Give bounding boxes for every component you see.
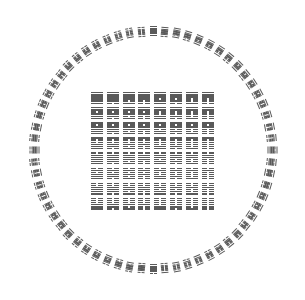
yang-line [186, 118, 198, 119]
yang-line [272, 147, 273, 154]
hexagram-glyph [186, 168, 198, 180]
hexagram-glyph [161, 263, 169, 274]
hexagram-glyph [102, 254, 112, 266]
hexagram-glyph [183, 258, 193, 270]
hexagram-glyph [138, 122, 150, 134]
yin-line [138, 118, 150, 119]
hexagram-glyph [170, 152, 182, 164]
yin-line [138, 35, 145, 37]
hexagram-glyph [55, 220, 67, 232]
hexagram-glyph [138, 198, 150, 210]
yang-line [186, 133, 198, 134]
yin-line [137, 272, 144, 274]
hexagram-glyph [137, 263, 145, 274]
yin-line [202, 103, 214, 104]
hexagram-glyph [48, 78, 60, 89]
hexagram-glyph [31, 122, 42, 131]
hexagram-glyph [123, 122, 135, 134]
yin-line [274, 147, 275, 154]
hexagram-glyph [123, 107, 135, 119]
hexagram-glyph [150, 264, 157, 274]
hexagram-glyph [170, 122, 182, 134]
hexagram-glyph [123, 168, 135, 180]
hexagram-glyph [186, 107, 198, 119]
yang-line [123, 193, 135, 194]
hexagram-glyph [72, 52, 84, 64]
hexagram-glyph [202, 137, 214, 149]
yang-line [154, 133, 166, 134]
hexagram-glyph [193, 254, 203, 266]
yin-line [107, 133, 119, 134]
yin-line [202, 193, 214, 194]
yin-line [107, 163, 119, 164]
yang-line [36, 147, 37, 154]
hexagram-glyph [231, 60, 243, 72]
hexagram-glyph [172, 28, 181, 39]
hexagram-glyph [42, 88, 54, 99]
yang-line [32, 147, 33, 154]
hexagram-glyph [252, 88, 264, 99]
yin-line [38, 135, 40, 142]
hexagram-glyph [91, 168, 103, 180]
yin-line [202, 148, 214, 149]
yang-line [269, 147, 270, 154]
hexagram-glyph [186, 137, 198, 149]
hexagram-glyph [72, 236, 84, 248]
yin-line [138, 208, 150, 209]
yin-line [29, 147, 30, 154]
hexagram-glyph [239, 69, 251, 81]
hexagram-glyph [91, 39, 102, 51]
yang-line [186, 178, 198, 179]
yin-line [170, 103, 182, 104]
yin-line [170, 208, 182, 209]
yang-line [186, 163, 198, 164]
hexagram-glyph [183, 30, 193, 42]
yin-line [138, 163, 150, 164]
hexagram-glyph [223, 52, 235, 64]
yang-line [186, 103, 198, 104]
hexagram-diagram [0, 0, 305, 300]
yin-line [202, 178, 214, 179]
yin-line [170, 178, 182, 179]
yin-line [170, 163, 182, 164]
hexagram-glyph [264, 122, 275, 131]
yin-line [138, 193, 150, 194]
hexagram-glyph [138, 92, 150, 104]
yang-line [123, 163, 135, 164]
yin-line [170, 193, 182, 194]
hexagram-glyph [37, 99, 49, 109]
hexagram-glyph [137, 26, 145, 37]
hexagram-glyph [107, 107, 119, 119]
hexagram-glyph [186, 183, 198, 195]
hexagram-glyph [202, 92, 214, 104]
yang-line [150, 271, 157, 272]
yang-line [123, 133, 135, 134]
hexagram-glyph [107, 168, 119, 180]
yang-line [39, 124, 42, 131]
yin-line [107, 193, 119, 194]
hexagram-glyph [107, 183, 119, 195]
yin-line [161, 35, 168, 37]
hexagram-glyph [186, 92, 198, 104]
yang-line [154, 148, 166, 149]
yang-line [91, 163, 103, 164]
hexagram-glyph [223, 236, 235, 248]
yang-line [186, 193, 198, 194]
hexagram-glyph [266, 134, 277, 142]
yang-line [91, 148, 103, 149]
hexagram-glyph [246, 210, 258, 221]
hexagram-glyph [213, 243, 224, 255]
hexagram-glyph [107, 198, 119, 210]
hexagram-glyph [123, 92, 135, 104]
yang-line [150, 269, 157, 270]
yang-line [270, 147, 271, 154]
hexagram-glyph [91, 152, 103, 164]
hexagram-glyph [91, 137, 103, 149]
yang-line [172, 36, 179, 39]
hexagram-glyph [91, 92, 103, 104]
hexagram-glyph [91, 122, 103, 134]
hexagram-glyph [63, 228, 75, 240]
hexagram-glyph [138, 183, 150, 195]
yang-line [150, 267, 157, 268]
hexagram-glyph [107, 152, 119, 164]
